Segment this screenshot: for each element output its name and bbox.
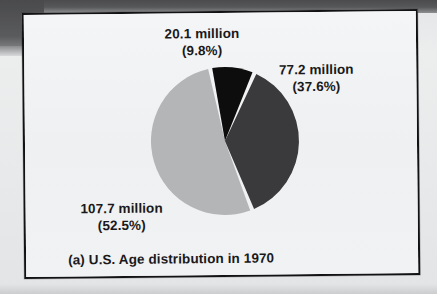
pie-chart [148,64,301,217]
figure-frame: 20.1 million (9.8%) 77.2 million (37.6%)… [22,9,421,279]
label-black-slice-percent: (9.8%) [142,42,262,60]
scanned-figure-page: 20.1 million (9.8%) 77.2 million (37.6%)… [0,0,437,294]
scan-edge-bottom [0,284,437,294]
label-black-slice: 20.1 million (9.8%) [142,25,262,61]
figure-caption: (a) U.S. Age distribution in 1970 [68,250,274,267]
pie-chart-svg [148,64,301,217]
pie-slices [150,66,299,215]
figure-content: 20.1 million (9.8%) 77.2 million (37.6%)… [24,11,418,277]
label-black-slice-value: 20.1 million [164,26,239,42]
label-light-gray-slice-percent: (52.5%) [57,217,187,236]
